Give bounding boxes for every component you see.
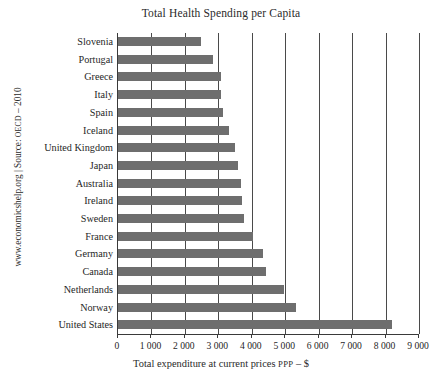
x-tick-4000 [251, 334, 252, 338]
category-label-netherlands: Netherlands [64, 281, 113, 298]
bar-row [118, 51, 419, 68]
x-tick-0 [117, 334, 118, 338]
bar-united-kingdom[interactable] [118, 143, 235, 152]
category-label-spain: Spain [90, 104, 113, 121]
category-label-united-kingdom: United Kingdom [44, 139, 113, 156]
x-tick-7000 [351, 334, 352, 338]
source-credit-suffix: – 2010 [13, 87, 23, 115]
source-credit-prefix: www.economicshelp.org | Source: [13, 137, 23, 266]
bar-spain[interactable] [118, 108, 223, 117]
bar-row [118, 86, 419, 103]
x-tick-6000 [318, 334, 319, 338]
x-axis-title-prefix: Total expenditure at current prices [133, 358, 278, 369]
x-axis-tick-labels: 01 0002 0003 0004 0005 0006 0007 0008 00… [0, 340, 442, 354]
x-tick-label-3000: 3 000 [207, 340, 229, 351]
x-tick-5000 [284, 334, 285, 338]
category-label-sweden: Sweden [81, 210, 113, 227]
bar-row [118, 68, 419, 85]
bar-row [118, 122, 419, 139]
source-credit: www.economicshelp.org | Source: OECD – 2… [13, 27, 23, 327]
bar-row [118, 157, 419, 174]
x-tick-8000 [385, 334, 386, 338]
chart-title: Total Health Spending per Capita [0, 7, 442, 19]
x-axis-line [117, 334, 418, 335]
bar-row [118, 316, 419, 333]
bar-row [118, 210, 419, 227]
category-label-canada: Canada [82, 263, 113, 280]
bar-row [118, 104, 419, 121]
bar-australia[interactable] [118, 179, 241, 188]
bar-netherlands[interactable] [118, 285, 284, 294]
category-label-italy: Italy [94, 86, 113, 103]
x-tick-label-4000: 4 000 [240, 340, 262, 351]
bars-layer [118, 33, 418, 334]
category-label-france: France [85, 228, 113, 245]
bar-row [118, 281, 419, 298]
x-tick-label-7000: 7 000 [340, 340, 362, 351]
bar-france[interactable] [118, 232, 253, 241]
plot-area [117, 33, 418, 334]
bar-japan[interactable] [118, 161, 238, 170]
x-tick-label-6000: 6 000 [307, 340, 329, 351]
x-tick-3000 [217, 334, 218, 338]
bar-united-states[interactable] [118, 320, 392, 329]
category-label-australia: Australia [76, 175, 113, 192]
bar-iceland[interactable] [118, 126, 229, 135]
category-label-norway: Norway [80, 299, 113, 316]
category-label-united-states: United States [58, 316, 113, 333]
x-tick-label-2000: 2 000 [173, 340, 195, 351]
bar-row [118, 33, 419, 50]
category-label-portugal: Portugal [78, 51, 113, 68]
bar-row [118, 263, 419, 280]
x-tick-label-5000: 5 000 [273, 340, 295, 351]
category-label-germany: Germany [75, 245, 113, 262]
source-credit-org: OECD [14, 115, 23, 137]
bar-slovenia[interactable] [118, 37, 201, 46]
x-axis-title-ppp: PPP [278, 359, 293, 369]
bar-ireland[interactable] [118, 196, 242, 205]
bar-row [118, 175, 419, 192]
x-tick-label-9000: 9 000 [407, 340, 429, 351]
category-label-greece: Greece [84, 68, 113, 85]
x-tick-1000 [150, 334, 151, 338]
bar-portugal[interactable] [118, 55, 213, 64]
bar-sweden[interactable] [118, 214, 244, 223]
category-label-ireland: Ireland [84, 192, 113, 209]
bar-row [118, 228, 419, 245]
x-tick-label-8000: 8 000 [374, 340, 396, 351]
bar-row [118, 299, 419, 316]
x-tick-label-1000: 1 000 [140, 340, 162, 351]
bar-row [118, 192, 419, 209]
bar-italy[interactable] [118, 90, 221, 99]
bar-row [118, 139, 419, 156]
x-axis-title: Total expenditure at current prices PPP … [0, 358, 442, 369]
bar-row [118, 245, 419, 262]
x-axis-title-suffix: – $ [293, 358, 309, 369]
bar-germany[interactable] [118, 249, 263, 258]
chart-container: Total Health Spending per Capita www.eco… [0, 0, 442, 384]
x-tick-9000 [418, 334, 419, 338]
bar-norway[interactable] [118, 303, 296, 312]
x-tick-2000 [184, 334, 185, 338]
category-label-slovenia: Slovenia [77, 33, 113, 50]
bar-canada[interactable] [118, 267, 266, 276]
gridline-9000 [419, 33, 420, 334]
bar-greece[interactable] [118, 72, 221, 81]
category-label-iceland: Iceland [83, 122, 113, 139]
category-label-japan: Japan [90, 157, 113, 174]
x-tick-label-0: 0 [115, 340, 120, 351]
